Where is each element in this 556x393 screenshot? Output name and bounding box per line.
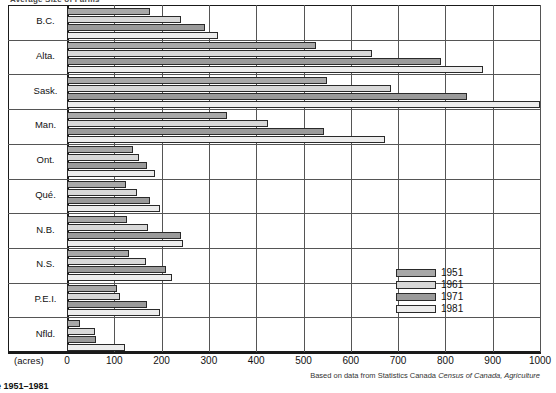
bar-group: N.B. bbox=[8, 213, 541, 248]
category-label: P.E.I. bbox=[18, 293, 73, 304]
group-separator bbox=[8, 317, 541, 318]
bar bbox=[67, 197, 150, 204]
source-note: Based on data from Statistics Canada Cen… bbox=[310, 371, 540, 380]
bar-group: Ont. bbox=[8, 144, 541, 179]
bar bbox=[67, 16, 181, 23]
legend-swatch bbox=[396, 281, 436, 289]
bar bbox=[67, 328, 95, 335]
x-tick-label: 900 bbox=[473, 355, 513, 366]
bar bbox=[67, 128, 324, 135]
source-note-italic: Census of Canada, Agriculture bbox=[438, 371, 540, 380]
bar bbox=[67, 205, 160, 212]
bar bbox=[67, 181, 126, 188]
category-label: Ont. bbox=[18, 154, 73, 165]
bar bbox=[67, 258, 146, 265]
category-label: N.S. bbox=[18, 258, 73, 269]
bar bbox=[67, 344, 125, 351]
bar bbox=[67, 101, 540, 108]
bar bbox=[67, 250, 129, 257]
bar bbox=[67, 8, 150, 15]
group-separator bbox=[8, 179, 541, 180]
legend: 1951196119711981 bbox=[396, 268, 488, 316]
bar bbox=[67, 170, 155, 177]
group-separator bbox=[8, 144, 541, 145]
bar bbox=[67, 24, 205, 31]
bar bbox=[67, 301, 147, 308]
legend-swatch bbox=[396, 305, 436, 313]
bar bbox=[67, 240, 183, 247]
bar-group: B.C. bbox=[8, 5, 541, 40]
x-tick-label: 400 bbox=[236, 355, 276, 366]
bar bbox=[67, 58, 441, 65]
bar bbox=[67, 309, 160, 316]
legend-label: 1961 bbox=[441, 279, 463, 290]
bar bbox=[67, 266, 166, 273]
category-label: Sask. bbox=[18, 85, 73, 96]
x-tick-label: 100 bbox=[94, 355, 134, 366]
bar-group: Nfld. bbox=[8, 317, 541, 352]
group-separator bbox=[8, 109, 541, 110]
category-label: Qué. bbox=[18, 189, 73, 200]
category-label: Nfld. bbox=[18, 328, 73, 339]
bar bbox=[67, 336, 96, 343]
bar-group: Qué. bbox=[8, 179, 541, 214]
bar bbox=[67, 136, 385, 143]
bar bbox=[67, 93, 467, 100]
bar bbox=[67, 154, 139, 161]
bar bbox=[67, 146, 133, 153]
bar-group: Man. bbox=[8, 109, 541, 144]
bar bbox=[67, 293, 120, 300]
group-separator bbox=[8, 248, 541, 249]
category-label: N.B. bbox=[18, 224, 73, 235]
bar bbox=[67, 77, 327, 84]
x-tick-label: 600 bbox=[331, 355, 371, 366]
bar bbox=[67, 189, 137, 196]
legend-swatch bbox=[396, 269, 436, 277]
bottom-caption: e 1951–1981 bbox=[0, 381, 49, 391]
bar bbox=[67, 112, 227, 119]
bar bbox=[67, 320, 80, 327]
category-label: Man. bbox=[18, 119, 73, 130]
x-tick-label: 800 bbox=[425, 355, 465, 366]
bar bbox=[67, 120, 268, 127]
bar bbox=[67, 42, 316, 49]
x-axis-units-label: (acres) bbox=[14, 355, 44, 366]
bar bbox=[67, 50, 372, 57]
x-axis-line bbox=[8, 352, 541, 354]
x-tick-label: 500 bbox=[284, 355, 324, 366]
x-tick-label: 0 bbox=[47, 355, 87, 366]
bar bbox=[67, 274, 172, 281]
group-separator bbox=[8, 213, 541, 214]
x-tick-label: 200 bbox=[142, 355, 182, 366]
x-tick-label: 1000 bbox=[520, 355, 556, 366]
x-tick-label: 300 bbox=[189, 355, 229, 366]
category-label: Alta. bbox=[18, 50, 73, 61]
legend-label: 1951 bbox=[441, 267, 463, 278]
bar bbox=[67, 85, 391, 92]
legend-swatch bbox=[396, 293, 436, 301]
bar bbox=[67, 224, 148, 231]
bar-group: Alta. bbox=[8, 40, 541, 75]
legend-label: 1971 bbox=[441, 291, 463, 302]
group-separator bbox=[8, 74, 541, 75]
bar-group: Sask. bbox=[8, 74, 541, 109]
source-note-prefix: Based on data from Statistics Canada bbox=[310, 371, 438, 380]
legend-label: 1981 bbox=[441, 303, 463, 314]
bar bbox=[67, 285, 117, 292]
legend-item: 1981 bbox=[396, 304, 488, 316]
x-tick-label: 700 bbox=[378, 355, 418, 366]
group-separator bbox=[8, 40, 541, 41]
category-label: B.C. bbox=[18, 15, 73, 26]
bar bbox=[67, 162, 147, 169]
bar bbox=[67, 232, 181, 239]
bar bbox=[67, 66, 483, 73]
bar bbox=[67, 32, 218, 39]
bar bbox=[67, 216, 127, 223]
